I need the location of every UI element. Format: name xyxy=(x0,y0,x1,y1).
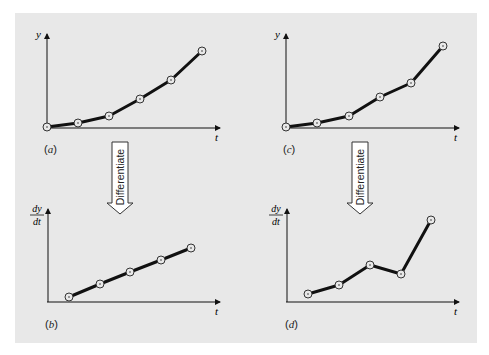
data-points xyxy=(43,47,206,131)
differentiate-arrow-left: Differentiate xyxy=(107,142,133,214)
data-line xyxy=(308,220,431,294)
panel-b: dy dt t (b) xyxy=(30,203,220,330)
differentiation-diagram: y t (a) y t (c) dy dt t (b) xyxy=(0,0,489,355)
panel-c: y t (c) xyxy=(274,28,459,155)
panel-caption: (d) xyxy=(285,318,298,330)
t-axis-label: t xyxy=(454,131,458,143)
y-axis-label: y xyxy=(35,28,41,40)
differentiate-label: Differentiate xyxy=(354,149,366,206)
t-axis-label: t xyxy=(454,305,458,317)
y-axis-label: y xyxy=(274,28,280,40)
differentiate-label: Differentiate xyxy=(114,149,126,206)
data-points xyxy=(304,216,435,298)
panel-caption: (b) xyxy=(45,318,58,330)
panel-d: dy dt t (d) xyxy=(269,203,459,330)
y-axis-label-numerator: dy xyxy=(32,203,42,214)
y-axis-label-denominator: dt xyxy=(272,216,280,227)
t-axis-label: t xyxy=(215,305,219,317)
panel-caption: (a) xyxy=(44,143,57,155)
differentiate-arrow-right: Differentiate xyxy=(347,142,373,214)
y-axis-label-numerator: dy xyxy=(271,203,281,214)
data-points xyxy=(282,42,447,131)
panel-a: y t (a) xyxy=(35,28,220,155)
panel-caption: (c) xyxy=(283,143,295,155)
data-line xyxy=(286,46,443,127)
t-axis-label: t xyxy=(215,131,219,143)
y-axis-label-denominator: dt xyxy=(33,216,41,227)
data-line xyxy=(47,51,202,127)
